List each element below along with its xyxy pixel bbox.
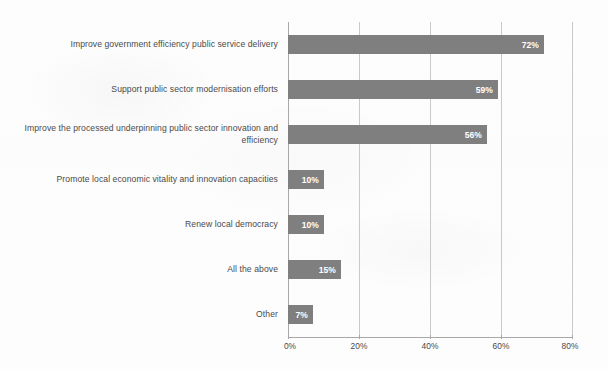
category-label: Promote local economic vitality and inno…: [8, 157, 284, 202]
category-label: Improve government efficiency public ser…: [8, 22, 284, 67]
category-label: Renew local democracy: [8, 202, 284, 247]
bar-value-label: 56%: [465, 130, 487, 140]
category-label: Other: [8, 292, 284, 337]
bar[interactable]: 7%: [288, 305, 313, 324]
horizontal-bar-chart: Improve government efficiency public ser…: [0, 0, 608, 369]
bar-value-label: 15%: [319, 265, 341, 275]
bar-value-label: 10%: [302, 220, 324, 230]
tick-mark: [359, 335, 360, 339]
category-label-text: Support public sector modernisation effo…: [111, 84, 278, 96]
tick-mark: [288, 335, 289, 339]
bar-row: 10%: [288, 157, 573, 202]
category-label: Improve the processed underpinning publi…: [8, 112, 284, 157]
bar-value-label: 10%: [302, 175, 324, 185]
bar[interactable]: 72%: [288, 35, 544, 54]
tick-label: 20%: [351, 341, 368, 351]
category-label-text: Promote local economic vitality and inno…: [57, 174, 278, 186]
bar-row: 10%: [288, 202, 573, 247]
bar-row: 72%: [288, 22, 573, 67]
bar[interactable]: 59%: [288, 80, 498, 99]
category-label-text: Improve government efficiency public ser…: [70, 39, 278, 51]
tick-label: 0%: [284, 341, 296, 351]
bar-row: 59%: [288, 67, 573, 112]
tick-label: 40%: [422, 341, 439, 351]
bar-row: 15%: [288, 247, 573, 292]
category-label-text: All the above: [227, 264, 278, 276]
category-label: All the above: [8, 247, 284, 292]
bar[interactable]: 10%: [288, 170, 324, 189]
bar[interactable]: 15%: [288, 260, 341, 279]
plot-area: 72% 59% 56% 10% 10%: [288, 22, 573, 337]
bar-value-label: 59%: [476, 85, 498, 95]
bar[interactable]: 56%: [288, 125, 487, 144]
bar-value-label: 72%: [522, 40, 544, 50]
category-label-text: Improve the processed underpinning publi…: [8, 123, 278, 146]
value-axis-ticks: 0% 20% 40% 60% 80%: [288, 338, 573, 356]
category-label-text: Other: [256, 309, 278, 321]
tick-mark: [572, 335, 573, 339]
bar-row: 56%: [288, 112, 573, 157]
category-label: Support public sector modernisation effo…: [8, 67, 284, 112]
tick-label: 80%: [562, 341, 579, 351]
category-label-text: Renew local democracy: [185, 219, 278, 231]
tick-mark: [430, 335, 431, 339]
tick-mark: [501, 335, 502, 339]
bar[interactable]: 10%: [288, 215, 324, 234]
bar-row: 7%: [288, 292, 573, 337]
category-axis-labels: Improve government efficiency public ser…: [8, 22, 284, 337]
tick-label: 60%: [493, 341, 510, 351]
bar-series: 72% 59% 56% 10% 10%: [288, 22, 573, 337]
bar-value-label: 7%: [296, 310, 314, 320]
